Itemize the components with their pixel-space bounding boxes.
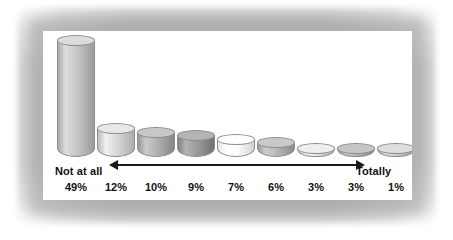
bar-top-ellipse [257, 137, 295, 148]
bar-body [57, 41, 95, 157]
bar-value-label: 12% [97, 181, 135, 193]
bar-cylinder [337, 143, 375, 157]
bar-cylinder [57, 35, 95, 157]
bar-value-label: 10% [137, 181, 175, 193]
bar-cylinder [97, 123, 135, 157]
bar-value-label: 49% [57, 181, 95, 193]
bar-value-label: 3% [297, 181, 335, 193]
scale-low-label: Not at all [55, 165, 102, 177]
bar-cylinder [297, 143, 335, 157]
scale-high-label: Totally [356, 165, 391, 177]
bar-top-ellipse [97, 123, 135, 134]
bar-top-ellipse [337, 143, 375, 154]
bar-top-ellipse [137, 127, 175, 138]
arrow-line [116, 164, 358, 166]
figure-frame: Not at all Totally 49%12%10%9%7%6%3%3%1% [0, 0, 453, 240]
bar-cylinder [377, 143, 412, 157]
bar-value-label: 6% [257, 181, 295, 193]
bar-cylinder [137, 127, 175, 157]
bar-top-ellipse [297, 143, 335, 154]
bar-value-label: 1% [377, 181, 412, 193]
bar-value-label: 7% [217, 181, 255, 193]
bar-top-ellipse [177, 130, 215, 141]
bar-top-ellipse [377, 143, 412, 154]
bar-value-label: 3% [337, 181, 375, 193]
bar-top-ellipse [57, 35, 95, 46]
bars-area [43, 31, 412, 157]
bar-value-label: 9% [177, 181, 215, 193]
percentage-label-row: 49%12%10%9%7%6%3%3%1% [43, 181, 412, 197]
bar-cylinder [177, 130, 215, 157]
bar-cylinder [217, 134, 255, 157]
bar-top-ellipse [217, 134, 255, 145]
bar-cylinder [257, 137, 295, 157]
chart-plot-panel: Not at all Totally 49%12%10%9%7%6%3%3%1% [43, 31, 412, 200]
